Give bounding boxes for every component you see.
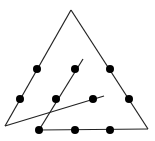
- dot: [33, 65, 41, 73]
- dot: [52, 95, 60, 103]
- dot: [106, 126, 114, 134]
- dot: [89, 95, 97, 103]
- dot: [16, 95, 24, 103]
- dot: [71, 126, 79, 134]
- dot: [71, 65, 79, 73]
- dot: [125, 95, 133, 103]
- dot: [35, 126, 43, 134]
- dot: [106, 65, 114, 73]
- triangle-diagram: [0, 0, 155, 141]
- triangle-bottom-edge: [39, 129, 148, 130]
